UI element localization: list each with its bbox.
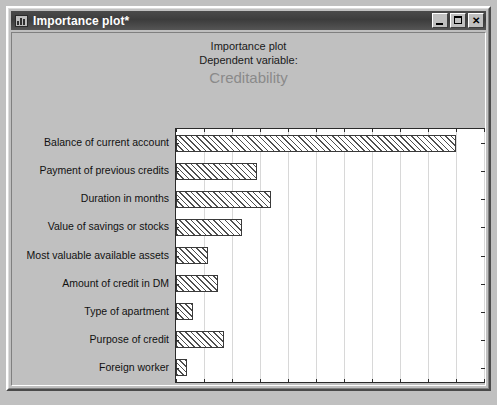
y-axis-tick-right (481, 227, 485, 228)
x-axis-tick-top (316, 128, 317, 132)
y-axis-tick-right (481, 171, 485, 172)
bar (176, 163, 257, 180)
x-axis-tick (232, 379, 233, 383)
x-axis-tick-top (372, 128, 373, 132)
x-axis-tick (484, 379, 485, 383)
bar (176, 247, 208, 264)
application-window: Importance plot* ✕ Importance plot Depen… (0, 0, 497, 405)
x-axis-tick (204, 379, 205, 383)
x-axis-tick (176, 379, 177, 383)
y-axis-tick (175, 227, 179, 228)
gridline (344, 129, 345, 382)
x-axis-tick (428, 379, 429, 383)
x-axis-tick-top (204, 128, 205, 132)
bar (176, 219, 242, 236)
y-axis-tick (175, 199, 179, 200)
y-axis-tick (175, 340, 179, 341)
x-axis-tick-top (260, 128, 261, 132)
window-controls: ✕ (432, 13, 484, 28)
x-axis-tick-top (344, 128, 345, 132)
y-axis-tick (175, 171, 179, 172)
x-axis-tick (316, 379, 317, 383)
x-axis-tick-top (400, 128, 401, 132)
maximize-button[interactable] (450, 13, 466, 28)
chart-heading: Importance plot Dependent variable: Cred… (12, 39, 485, 87)
x-axis-tick-top (484, 128, 485, 132)
y-axis-label: Foreign worker (99, 361, 169, 373)
gridline (400, 129, 401, 382)
y-axis-label: Purpose of credit (90, 333, 169, 345)
gridline (428, 129, 429, 382)
close-button[interactable]: ✕ (468, 13, 484, 28)
y-axis-labels: Balance of current accountPayment of pre… (12, 128, 169, 381)
chart-title: Importance plot (12, 39, 485, 53)
y-axis-tick (175, 256, 179, 257)
y-axis-label: Duration in months (81, 192, 169, 204)
x-axis-tick (260, 379, 261, 383)
y-axis-label: Value of savings or stocks (48, 220, 169, 232)
y-axis-tick (175, 368, 179, 369)
x-axis-tick (288, 379, 289, 383)
x-axis-tick (456, 379, 457, 383)
dependent-variable-name: Creditability (12, 68, 485, 87)
chart-subtitle: Dependent variable: (12, 53, 485, 67)
y-axis-tick-right (481, 143, 485, 144)
y-axis-label: Amount of credit in DM (62, 277, 169, 289)
gridline (316, 129, 317, 382)
x-axis-tick (344, 379, 345, 383)
x-axis-tick-top (428, 128, 429, 132)
y-axis-label: Most valuable available assets (27, 249, 169, 261)
y-axis-tick-right (481, 256, 485, 257)
y-axis-tick (175, 284, 179, 285)
bar (176, 331, 224, 348)
gridline (456, 129, 457, 382)
x-axis-tick-top (176, 128, 177, 132)
y-axis-tick-right (481, 312, 485, 313)
title-bar[interactable]: Importance plot* ✕ (11, 11, 486, 30)
minimize-button[interactable] (432, 13, 448, 28)
bar-chart-icon (14, 14, 29, 28)
x-axis-tick (372, 379, 373, 383)
y-axis-tick-right (481, 368, 485, 369)
close-icon: ✕ (472, 16, 480, 26)
x-axis-tick-top (232, 128, 233, 132)
x-axis-tick-top (456, 128, 457, 132)
y-axis-tick-right (481, 199, 485, 200)
x-axis-tick (400, 379, 401, 383)
y-axis-tick-right (481, 284, 485, 285)
x-axis-tick-top (288, 128, 289, 132)
window-frame: Importance plot* ✕ Importance plot Depen… (6, 6, 491, 391)
gridline (372, 129, 373, 382)
bar (176, 135, 456, 152)
y-axis-tick (175, 312, 179, 313)
y-axis-label: Type of apartment (84, 305, 169, 317)
y-axis-tick (175, 143, 179, 144)
gridline (288, 129, 289, 382)
y-axis-label: Payment of previous credits (39, 164, 169, 176)
bar (176, 191, 271, 208)
gridline (260, 129, 261, 382)
window-title: Importance plot* (33, 14, 432, 28)
plot-area (175, 128, 485, 383)
y-axis-label: Balance of current account (44, 136, 169, 148)
minimize-icon (436, 23, 443, 25)
bar (176, 275, 218, 292)
maximize-icon (454, 16, 462, 24)
y-axis-tick-right (481, 340, 485, 341)
chart-canvas: Importance plot Dependent variable: Cred… (11, 32, 486, 386)
